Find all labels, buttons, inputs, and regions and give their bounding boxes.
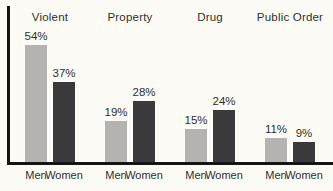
series-labels-row: MenWomen bbox=[250, 162, 330, 189]
bars-row: 54%37% bbox=[10, 26, 90, 162]
bar-value-label: 9% bbox=[296, 127, 313, 140]
bar-value-label: 37% bbox=[52, 67, 75, 80]
bar-men bbox=[185, 129, 207, 162]
bar-column-women: 37% bbox=[53, 67, 75, 162]
bar-women bbox=[213, 110, 235, 162]
bar-men bbox=[265, 138, 287, 162]
category-groups: Violent54%37%MenWomenProperty19%28%MenWo… bbox=[10, 0, 330, 189]
bars-row: 15%24% bbox=[170, 26, 250, 162]
bar-women bbox=[133, 101, 155, 162]
category-label: Violent bbox=[10, 0, 90, 26]
category-label: Public Order bbox=[250, 0, 330, 26]
series-labels-row: MenWomen bbox=[170, 162, 250, 189]
series-labels-row: MenWomen bbox=[10, 162, 90, 189]
series-label-men: Men bbox=[185, 169, 207, 189]
category-label: Property bbox=[90, 0, 170, 26]
bars-row: 19%28% bbox=[90, 26, 170, 162]
series-label-men: Men bbox=[265, 169, 287, 189]
bar-value-label: 19% bbox=[104, 106, 127, 119]
category-group: Public Order11%9%MenWomen bbox=[250, 0, 330, 189]
bar-value-label: 54% bbox=[24, 30, 47, 43]
series-label-men: Men bbox=[25, 169, 47, 189]
series-label-women: Women bbox=[213, 169, 235, 189]
bars-row: 11%9% bbox=[250, 26, 330, 162]
series-label-women: Women bbox=[133, 169, 155, 189]
series-label-women: Women bbox=[53, 169, 75, 189]
bar-column-men: 15% bbox=[185, 114, 207, 162]
bar-men bbox=[105, 121, 127, 162]
category-label: Drug bbox=[170, 0, 250, 26]
series-labels-row: MenWomen bbox=[90, 162, 170, 189]
bar-column-women: 28% bbox=[133, 86, 155, 162]
category-group: Property19%28%MenWomen bbox=[90, 0, 170, 189]
category-group: Drug15%24%MenWomen bbox=[170, 0, 250, 189]
bar-column-men: 19% bbox=[105, 106, 127, 162]
bar-column-women: 9% bbox=[293, 127, 315, 162]
bar-column-men: 54% bbox=[25, 30, 47, 162]
bar-value-label: 28% bbox=[132, 86, 155, 99]
bar-column-women: 24% bbox=[213, 95, 235, 162]
bar-value-label: 11% bbox=[265, 123, 287, 136]
bar-women bbox=[53, 82, 75, 162]
bar-value-label: 24% bbox=[212, 95, 235, 108]
bar-men bbox=[25, 45, 47, 162]
series-label-women: Women bbox=[293, 169, 315, 189]
series-label-men: Men bbox=[105, 169, 127, 189]
grouped-bar-chart: Violent54%37%MenWomenProperty19%28%MenWo… bbox=[0, 0, 333, 191]
bar-value-label: 15% bbox=[184, 114, 207, 127]
category-group: Violent54%37%MenWomen bbox=[10, 0, 90, 189]
bar-women bbox=[293, 142, 315, 162]
bar-column-men: 11% bbox=[265, 123, 287, 162]
